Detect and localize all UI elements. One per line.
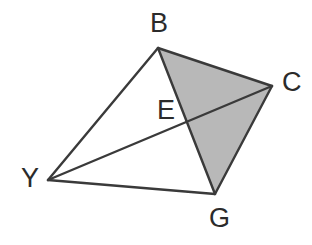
- vertex-label-c: C: [282, 69, 302, 96]
- vertex-label-y: Y: [21, 165, 39, 192]
- segment-GY: [48, 180, 215, 194]
- shaded-triangle-BCG: [158, 48, 272, 194]
- segment-YB: [48, 48, 158, 180]
- vertex-label-b: B: [150, 10, 168, 37]
- geometry-figure: B C E Y G: [0, 0, 312, 245]
- vertex-label-e: E: [157, 97, 175, 124]
- vertex-label-g: G: [209, 205, 230, 232]
